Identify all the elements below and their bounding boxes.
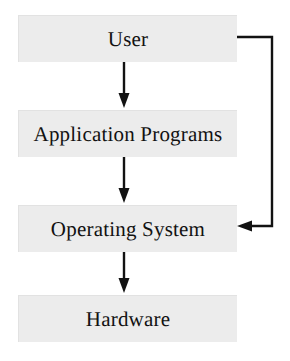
node-application-programs-label: Application Programs <box>34 124 223 145</box>
arrow-application-programs-to-operating-system <box>119 157 130 203</box>
arrow-user-to-operating-system-feedback <box>237 37 272 232</box>
diagram-canvas: User Application Programs Operating Syst… <box>0 0 290 361</box>
node-hardware-label: Hardware <box>86 309 170 330</box>
node-application-programs[interactable]: Application Programs <box>18 110 237 157</box>
node-operating-system-label: Operating System <box>51 219 205 240</box>
arrow-operating-system-to-hardware <box>119 252 130 293</box>
node-user[interactable]: User <box>18 15 237 62</box>
node-hardware[interactable]: Hardware <box>18 295 237 342</box>
node-user-label: User <box>108 29 148 50</box>
arrow-user-to-application-programs <box>119 62 130 108</box>
node-operating-system[interactable]: Operating System <box>18 205 237 252</box>
